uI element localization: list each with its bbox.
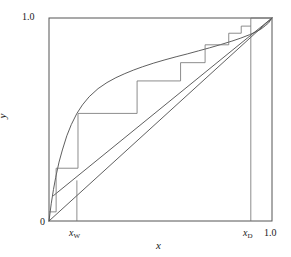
origin-tick-label: 0 xyxy=(40,216,45,227)
x-axis-right-tick-label: 1.0 xyxy=(264,227,277,238)
xw-tick-label: xW xyxy=(69,227,80,238)
xw-subscript: W xyxy=(73,232,80,240)
series-layer xyxy=(49,18,272,221)
mccabe-thiele-figure: 1.0 0 xW xD 1.0 x y xyxy=(0,0,291,257)
operating-line xyxy=(53,18,272,196)
y-axis-top-tick-label: 1.0 xyxy=(22,11,35,22)
staircase-steps xyxy=(49,18,272,212)
xd-tick-label: xD xyxy=(243,227,253,238)
y-axis-title: y xyxy=(0,114,8,119)
diagonal-45-line xyxy=(49,18,272,221)
y-axis-title-wrapper: y xyxy=(6,112,20,126)
x-axis-title: x xyxy=(156,239,161,251)
xd-subscript: D xyxy=(247,232,252,240)
